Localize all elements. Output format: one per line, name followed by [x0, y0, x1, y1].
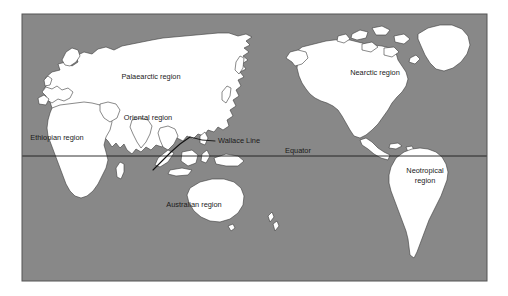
region-label-neotropical-line2: region — [415, 176, 436, 185]
region-label-ethiopian: Ethiopian region — [30, 133, 83, 142]
biogeographic-regions-figure: Palaearctic region Oriental region Ethio… — [0, 0, 508, 296]
region-label-oriental: Oriental region — [124, 113, 172, 122]
region-label-palaearctic: Palaearctic region — [121, 72, 180, 81]
region-label-neotropical-line1: Neotropical — [406, 166, 444, 175]
region-label-australian: Australian region — [166, 200, 221, 209]
world-map-svg: Palaearctic region Oriental region Ethio… — [0, 0, 508, 296]
annotation-label-wallace-line: Wallace Line — [218, 136, 260, 145]
equator-label: Equator — [285, 146, 311, 155]
region-label-nearctic: Nearctic region — [350, 68, 400, 77]
